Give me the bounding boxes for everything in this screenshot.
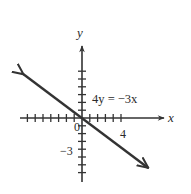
- equation-line: [24, 74, 149, 168]
- equation-text: 4y = −3x: [92, 92, 138, 106]
- equation-label: 4y = −3x: [92, 92, 138, 106]
- origin-label: 0: [74, 120, 80, 134]
- x-axis: [20, 114, 164, 122]
- y-axis-label: y: [75, 25, 83, 40]
- coordinate-plane: y x 0 4 −3 4y = −3x: [0, 0, 191, 194]
- x-tick-label-4: 4: [120, 127, 126, 141]
- y-tick-label-neg3: −3: [60, 144, 73, 158]
- x-axis-label: x: [167, 110, 174, 125]
- y-axis: [78, 46, 86, 182]
